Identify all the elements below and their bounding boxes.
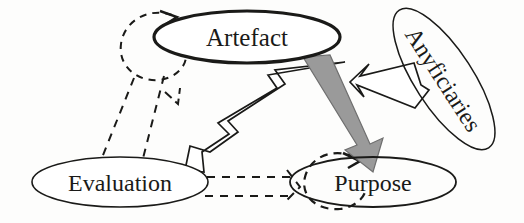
edge-evaluation-to-purpose-dashed [205,170,300,200]
node-artefact[interactable]: Artefact [154,11,340,63]
node-purpose[interactable]: Purpose [290,157,456,207]
diagram-canvas: Artefact Anyficiaries Evaluation Purpose [0,0,524,223]
node-evaluation[interactable]: Evaluation [32,157,208,207]
evaluation-label: Evaluation [68,170,172,196]
artefact-label: Artefact [206,24,288,51]
edge-artefact-to-evaluation-dashed [97,76,180,170]
relationship-diagram: Artefact Anyficiaries Evaluation Purpose [0,0,524,223]
purpose-label: Purpose [334,170,411,196]
